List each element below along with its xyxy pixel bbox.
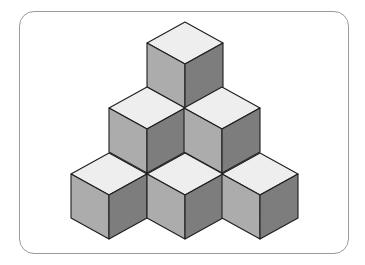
cube-pyramid-diagram xyxy=(0,0,365,265)
